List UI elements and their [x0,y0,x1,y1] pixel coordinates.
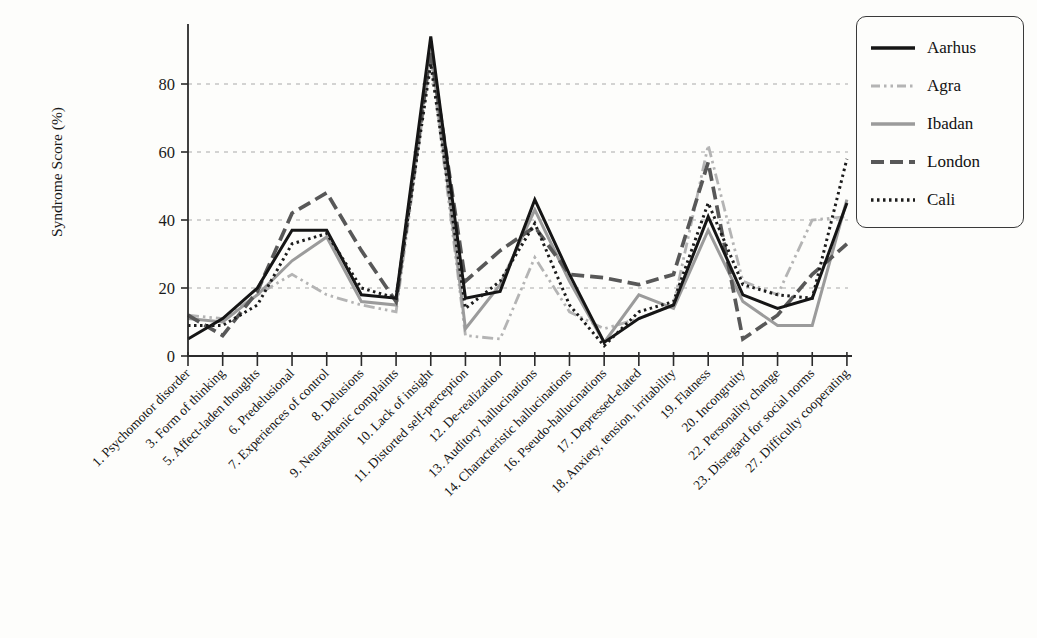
legend-item-agra: Agra [870,67,1013,105]
legend-label-agra: Agra [927,76,961,96]
legend-label-london: London [927,152,980,172]
legend-label-cali: Cali [927,190,955,210]
axes [181,24,852,366]
legend-item-cali: Cali [870,181,1013,219]
y-axis-title: Syndrome Score (%) [48,107,66,237]
legend-line-sample-cali [870,195,916,205]
y-tick-label-60: 60 [159,143,176,162]
legend-line-sample-aarhus [870,43,916,53]
legend-label-aarhus: Aarhus [927,38,976,58]
y-tick-label-0: 0 [167,347,175,366]
legend: AarhusAgraIbadanLondonCali [856,16,1024,228]
legend-item-ibadan: Ibadan [870,105,1013,143]
chart-page: Syndrome Score (%) 0204060801. Psychomot… [0,0,1037,638]
legend-label-ibadan: Ibadan [927,114,973,134]
gridlines [188,84,848,288]
y-tick-label-40: 40 [159,211,176,230]
axis-labels: 0204060801. Psychomotor disorder3. Form … [89,75,852,500]
legend-line-sample-london [870,157,916,167]
legend-line-sample-ibadan [870,119,916,129]
series-lines [188,36,847,345]
y-tick-label-80: 80 [159,75,176,94]
legend-item-aarhus: Aarhus [870,29,1013,67]
y-tick-label-20: 20 [159,279,176,298]
legend-line-sample-agra [870,81,916,91]
legend-item-london: London [870,143,1013,181]
